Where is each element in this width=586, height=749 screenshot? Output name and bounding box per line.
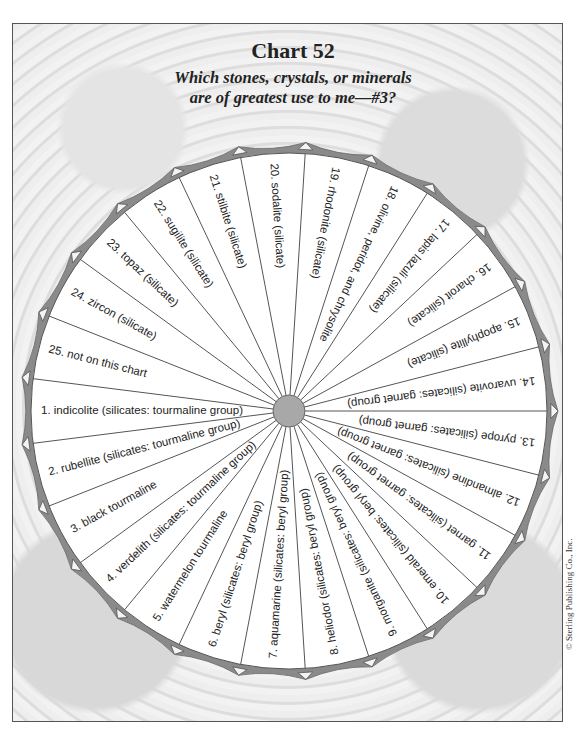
wheel-hub — [273, 395, 305, 427]
hub-circle — [273, 395, 305, 427]
copyright-notice: © Sterling Publishing Co., Inc. — [564, 538, 574, 650]
pendulum-wheel: 1. indicolite (silicates: tourmaline gro… — [0, 0, 586, 749]
segment-label-1: 1. indicolite (silicates: tourmaline gro… — [41, 404, 243, 416]
